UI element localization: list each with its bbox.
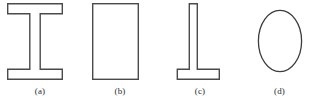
inverted-tee-outline — [177, 4, 219, 80]
shape-label-c: (c) — [160, 86, 240, 97]
i-beam-cross-section — [0, 0, 80, 84]
shape-label-d: (d) — [240, 86, 319, 97]
shape-cell-a: (a) — [0, 0, 80, 106]
circle-outline — [258, 10, 301, 71]
rectangle-outline — [93, 4, 139, 80]
shape-cell-d: (d) — [240, 0, 319, 106]
rectangle-cross-section — [80, 0, 160, 84]
shape-cell-b: (b) — [80, 0, 160, 106]
inverted-tee-cross-section — [160, 0, 240, 84]
shape-label-b: (b) — [80, 86, 160, 97]
i-beam-outline — [8, 4, 63, 80]
shape-label-a: (a) — [0, 86, 80, 97]
figure-container: (a) (b) (c) (d) — [0, 0, 319, 106]
shape-cell-c: (c) — [160, 0, 240, 106]
circle-cross-section — [240, 0, 319, 84]
